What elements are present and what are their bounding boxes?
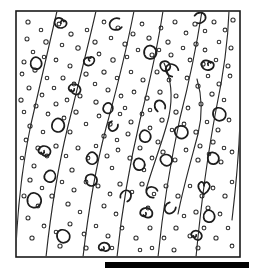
line-art-illustration bbox=[0, 0, 254, 276]
figure-root: Rectangular framed line drawing showing … bbox=[0, 0, 254, 276]
base-bar bbox=[105, 262, 249, 268]
outer-frame bbox=[16, 11, 240, 257]
